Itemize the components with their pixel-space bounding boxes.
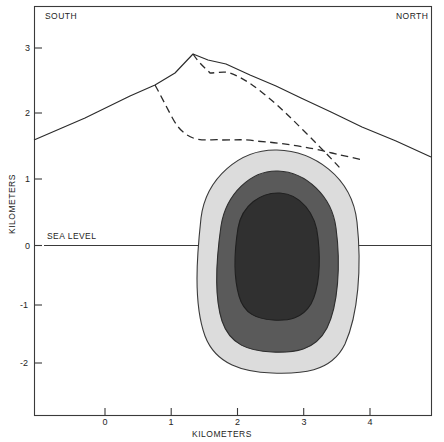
x-tick-label-4: 4: [367, 417, 372, 427]
shaded-zone-group: [197, 150, 359, 373]
sea-level-label: SEA LEVEL: [47, 231, 96, 241]
y-tick-label-minus1: -1: [10, 300, 28, 310]
x-tick-label-0: 0: [102, 417, 107, 427]
x-tick-label-2: 2: [235, 417, 240, 427]
x-tick-label-1: 1: [168, 417, 173, 427]
x-tick-label-3: 3: [301, 417, 306, 427]
direction-label-south: SOUTH: [45, 11, 77, 21]
y-tick-label-2: 2: [12, 108, 30, 118]
y-tick-label-0: 0: [12, 241, 30, 251]
y-tick-label-1: 1: [12, 174, 30, 184]
y-tick-label-3: 3: [12, 43, 30, 53]
geologic-cross-section-plot: [0, 0, 444, 442]
direction-label-north: NORTH: [396, 11, 428, 21]
inner-zone-shape: [235, 193, 319, 320]
y-tick-label-minus2: -2: [10, 358, 28, 368]
x-axis-title: KILOMETERS: [0, 429, 444, 439]
cross-section-figure: SOUTH NORTH SEA LEVEL KILOMETERS KILOMET…: [0, 0, 444, 442]
